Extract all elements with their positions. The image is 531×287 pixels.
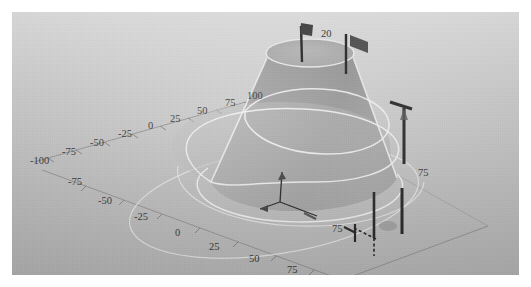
tick-label: -25 — [134, 211, 148, 222]
figure-root: · · · · · · · · · · — [0, 0, 531, 287]
tick-label: 25 — [170, 113, 181, 124]
tick-label: -50 — [98, 195, 112, 206]
height-scale-label: 75 — [418, 167, 429, 178]
tick-label: -25 — [118, 128, 132, 139]
base-blob — [379, 221, 397, 231]
tick-label: 75 — [287, 264, 298, 275]
tick-label: 50 — [197, 105, 208, 116]
base-depth-label: 75 — [332, 223, 343, 234]
top-flag-label: 20 — [321, 28, 332, 39]
tick-label: 0 — [175, 227, 180, 238]
plot-canvas: -100 -75 -50 -25 0 25 50 75 100 -75 -50 … — [12, 12, 519, 275]
flag-icon-left — [300, 23, 313, 36]
ghost-header-text: · · · · · · · · · · — [4, 1, 214, 10]
plot-area: -100 -75 -50 -25 0 25 50 75 100 -75 -50 … — [12, 12, 519, 275]
tick-label: -75 — [62, 146, 76, 157]
tick-label: 100 — [247, 90, 263, 101]
tick-label: -100 — [30, 155, 49, 166]
tick-label: -75 — [68, 176, 82, 187]
tick-label: 25 — [209, 241, 220, 252]
tick-label: 50 — [249, 253, 260, 264]
tick-label: -50 — [90, 137, 104, 148]
tick-label: 75 — [225, 97, 236, 108]
cone-lower-surface — [172, 102, 397, 211]
tick-label: 0 — [148, 120, 153, 131]
